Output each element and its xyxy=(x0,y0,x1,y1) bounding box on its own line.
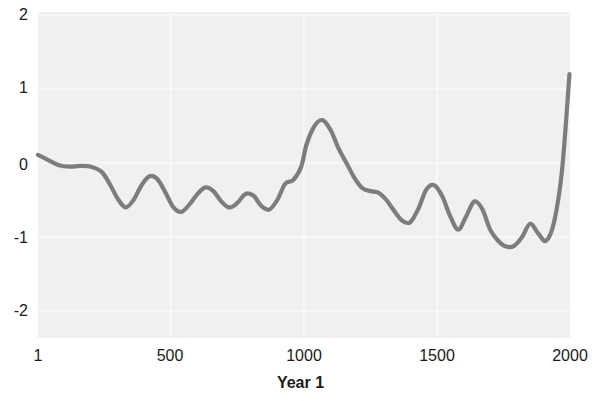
chart-canvas xyxy=(0,0,601,401)
x-axis-tick-label: 1500 xyxy=(407,348,467,364)
x-axis-tick-label: 1000 xyxy=(274,348,334,364)
y-axis-tick-label: -2 xyxy=(2,303,28,319)
x-axis-tick-label: 1 xyxy=(8,348,68,364)
y-axis-tick-label: 2 xyxy=(2,7,28,23)
x-axis-tick-label: 500 xyxy=(140,348,200,364)
line-chart: 210-1-2 1500100015002000 Year 1 xyxy=(0,0,601,401)
y-axis-tick-label: 1 xyxy=(2,80,28,96)
y-axis-tick-label: -1 xyxy=(2,230,28,246)
y-axis-tick-label: 0 xyxy=(2,157,28,173)
x-axis-title: Year 1 xyxy=(0,374,601,392)
x-axis-tick-label: 2000 xyxy=(540,348,600,364)
